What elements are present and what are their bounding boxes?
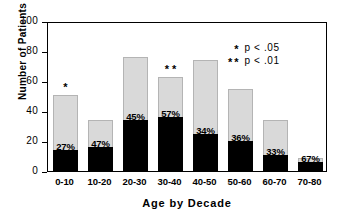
x-tick-label: 20-30 <box>117 176 152 187</box>
plot-area: 27%*47%45%57%**34%36%33%67% <box>47 22 327 172</box>
bar-chart-figure: Number of Patients 020406080100 27%*47%4… <box>0 0 350 220</box>
bar-percentage-label: 45% <box>119 111 152 122</box>
significance-marker: * <box>47 81 84 93</box>
bar-segment-black <box>88 147 113 171</box>
x-tick-label: 60-70 <box>257 176 292 187</box>
bar-percentage-label: 47% <box>84 138 117 149</box>
y-tick-label: 60 <box>26 75 38 86</box>
x-tick-label: 70-80 <box>292 176 327 187</box>
x-axis-title: Age by Decade <box>47 197 327 209</box>
bar <box>158 77 183 172</box>
legend-marker: ** <box>228 56 241 68</box>
legend-text: p < .05 <box>245 42 280 53</box>
y-tick-label: 20 <box>26 135 38 146</box>
y-tick-label: 40 <box>26 105 38 116</box>
bar-segment-black <box>263 155 288 172</box>
significance-legend: *p < .05**p < .01 <box>228 41 280 67</box>
bar-segment-black <box>53 150 78 171</box>
bar-percentage-label: 67% <box>294 153 327 164</box>
y-tick-label: 0 <box>32 165 38 176</box>
y-tick-label: 100 <box>20 15 38 26</box>
bar-percentage-label: 36% <box>224 132 257 143</box>
significance-marker: ** <box>152 63 189 75</box>
bar-percentage-label: 57% <box>154 108 187 119</box>
legend-text: p < .01 <box>245 55 280 66</box>
bar <box>193 60 218 171</box>
bar-segment-black <box>158 117 183 171</box>
legend-marker: * <box>234 43 240 55</box>
bar-segment-black <box>193 134 218 172</box>
legend-row: *p < .05 <box>228 41 280 54</box>
bar <box>228 89 253 172</box>
bar <box>53 95 78 172</box>
bar-segment-black <box>228 141 253 171</box>
bar-percentage-label: 33% <box>259 146 292 157</box>
legend-row: **p < .01 <box>228 54 280 67</box>
x-tick-label: 30-40 <box>152 176 187 187</box>
bar-percentage-label: 34% <box>189 125 222 136</box>
x-tick-label: 0-10 <box>47 176 82 187</box>
x-tick-label: 10-20 <box>82 176 117 187</box>
y-tick-label: 80 <box>26 45 38 56</box>
bar-percentage-label: 27% <box>49 141 82 152</box>
x-tick-label: 40-50 <box>187 176 222 187</box>
x-tick-label: 50-60 <box>222 176 257 187</box>
bar-segment-black <box>123 120 148 171</box>
